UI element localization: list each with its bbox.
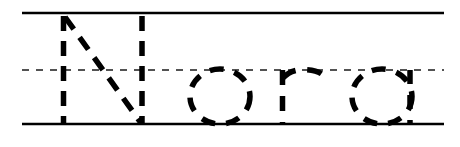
letter-r: [283, 70, 324, 125]
handwriting-worksheet: Nora: [0, 0, 460, 147]
stroke-bowl: [190, 69, 250, 124]
letter-N: [64, 16, 143, 124]
stroke-diagonal: [65, 17, 141, 123]
stroke-shoulder-arc: [283, 70, 323, 79]
letter-o: [190, 69, 250, 124]
letter-a: [352, 69, 412, 124]
tracing-canvas: [0, 0, 460, 147]
stroke-bowl: [352, 69, 412, 124]
